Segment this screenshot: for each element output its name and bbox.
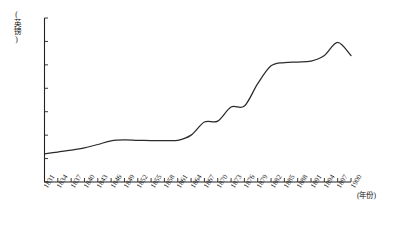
x-axis-tick-labels: 1831183418371840184318461849185218551858…	[0, 0, 400, 227]
x-tick-label: 1852	[136, 173, 150, 189]
x-tick-label: 1834	[56, 173, 70, 189]
x-tick-label: 1864	[190, 173, 204, 189]
x-tick-label: 1891	[310, 173, 324, 189]
x-tick-label: 1897	[336, 173, 350, 189]
x-tick-label: 1849	[123, 173, 137, 189]
x-tick-label: 1861	[176, 173, 190, 189]
x-tick-label: 1876	[243, 173, 257, 189]
x-tick-label: 1885	[283, 173, 297, 189]
x-tick-label: 1840	[83, 173, 97, 189]
x-tick-label: 1900	[350, 173, 364, 189]
x-tick-label: 1837	[70, 173, 84, 189]
x-tick-label: 1858	[163, 173, 177, 189]
x-tick-label: 1831	[43, 173, 57, 189]
x-tick-label: 1843	[96, 173, 110, 189]
chart-container: (英镑) 0500100015002000250030003500 183118…	[0, 0, 400, 227]
x-tick-label: 1882	[270, 173, 284, 189]
x-tick-label: 1888	[296, 173, 310, 189]
x-tick-label: 1867	[203, 173, 217, 189]
x-tick-label: 1870	[216, 173, 230, 189]
x-tick-label: 1873	[230, 173, 244, 189]
x-axis-title: (年份)	[357, 192, 376, 200]
x-tick-label: 1846	[110, 173, 124, 189]
x-tick-label: 1894	[323, 173, 337, 189]
x-tick-label: 1855	[150, 173, 164, 189]
x-tick-label: 1879	[256, 173, 270, 189]
